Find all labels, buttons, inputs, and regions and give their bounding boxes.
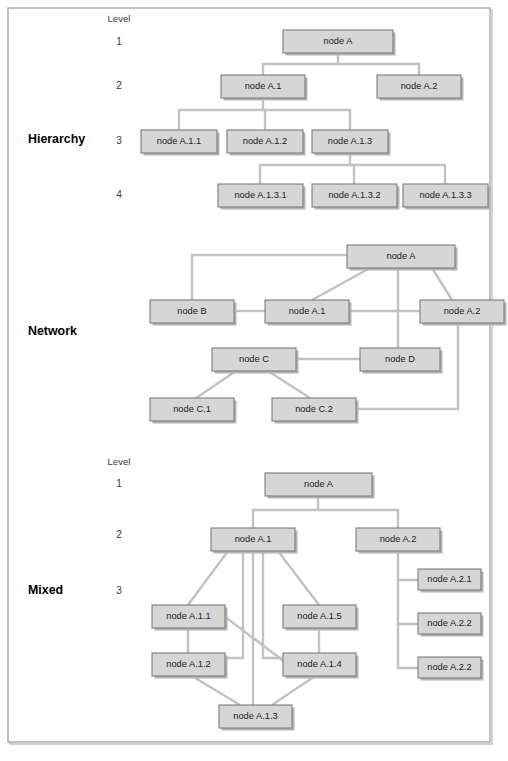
node-label-h-a132: node A.1.3.2 <box>328 190 380 200</box>
node-label-m-a15: node A.1.5 <box>297 611 341 621</box>
node-n-a2[interactable]: node A.2 <box>420 300 507 326</box>
node-n-c1[interactable]: node C.1 <box>150 398 237 424</box>
node-label-m-a12: node A.1.2 <box>166 659 210 669</box>
node-m-a12[interactable]: node A.1.2 <box>152 653 228 679</box>
node-m-a22a[interactable]: node A.2.2 <box>418 613 484 637</box>
node-label-n-a1: node A.1 <box>289 306 326 316</box>
node-m-a11[interactable]: node A.1.1 <box>152 605 228 631</box>
node-m-a[interactable]: node A <box>265 473 375 499</box>
node-n-c[interactable]: node C <box>212 348 299 374</box>
node-label-m-a22a: node A.2.2 <box>427 618 471 628</box>
node-label-m-a2: node A.2 <box>380 534 417 544</box>
node-n-b[interactable]: node B <box>150 300 237 326</box>
labels-network: Network <box>28 324 77 338</box>
node-n-a1[interactable]: node A.1 <box>265 300 352 326</box>
node-h-a12[interactable]: node A.1.2 <box>227 130 306 156</box>
level-header-hierarchy: Level <box>108 13 131 24</box>
node-label-h-a13: node A.1.3 <box>328 136 372 146</box>
level-number-mixed-2: 2 <box>116 529 122 540</box>
node-label-n-d: node D <box>385 354 415 364</box>
node-label-n-c1: node C.1 <box>173 404 211 414</box>
node-m-a1[interactable]: node A.1 <box>211 528 298 554</box>
node-m-a21[interactable]: node A.2.1 <box>418 569 484 593</box>
row-title-network: Network <box>28 324 77 338</box>
node-label-m-a22b: node A.2.2 <box>427 662 471 672</box>
node-label-h-a12: node A.1.2 <box>243 136 287 146</box>
node-n-d[interactable]: node D <box>360 348 443 374</box>
level-number-hierarchy-3: 3 <box>116 135 122 146</box>
node-m-a15[interactable]: node A.1.5 <box>283 605 359 631</box>
level-number-hierarchy-1: 1 <box>116 36 122 47</box>
node-label-n-a: node A <box>387 251 417 261</box>
node-h-a[interactable]: node A <box>283 30 396 56</box>
level-number-mixed-1: 1 <box>116 478 122 489</box>
node-label-h-a2: node A.2 <box>401 81 438 91</box>
node-label-m-a11: node A.1.1 <box>166 611 210 621</box>
node-label-m-a21: node A.2.1 <box>427 574 471 584</box>
level-number-hierarchy-4: 4 <box>116 189 122 200</box>
graph-structures-figure: node Anode A.1node A.2node A.1.1node A.1… <box>0 0 508 761</box>
node-label-m-a14: node A.1.4 <box>297 659 341 669</box>
node-h-a13[interactable]: node A.1.3 <box>312 130 391 156</box>
node-label-h-a: node A <box>324 36 354 46</box>
row-title-mixed: Mixed <box>28 583 63 597</box>
node-h-a1[interactable]: node A.1 <box>221 75 308 101</box>
level-header-mixed: Level <box>108 456 131 467</box>
node-label-n-c: node C <box>239 354 269 364</box>
node-label-n-b: node B <box>177 306 206 316</box>
level-number-hierarchy-2: 2 <box>116 80 122 91</box>
level-number-mixed-3: 3 <box>116 585 122 596</box>
node-label-h-a11: node A.1.1 <box>157 136 201 146</box>
node-label-h-a1: node A.1 <box>245 81 282 91</box>
node-n-c2[interactable]: node C.2 <box>272 398 359 424</box>
row-title-hierarchy: Hierarchy <box>28 132 85 146</box>
node-m-a22b[interactable]: node A.2.2 <box>418 657 484 681</box>
node-label-h-a131: node A.1.3.1 <box>234 190 286 200</box>
node-h-a133[interactable]: node A.1.3.3 <box>403 184 491 210</box>
node-h-a131[interactable]: node A.1.3.1 <box>218 184 306 210</box>
node-m-a14[interactable]: node A.1.4 <box>283 653 359 679</box>
node-label-m-a: node A <box>304 479 334 489</box>
node-m-a2[interactable]: node A.2 <box>356 528 443 554</box>
node-label-n-c2: node C.2 <box>295 404 333 414</box>
node-label-h-a133: node A.1.3.3 <box>419 190 471 200</box>
node-label-n-a2: node A.2 <box>444 306 481 316</box>
node-h-a132[interactable]: node A.1.3.2 <box>312 184 400 210</box>
node-h-a2[interactable]: node A.2 <box>377 75 464 101</box>
node-label-m-a1: node A.1 <box>235 534 272 544</box>
node-n-a[interactable]: node A <box>347 245 458 271</box>
node-label-m-a13: node A.1.3 <box>233 711 277 721</box>
node-m-a13[interactable]: node A.1.3 <box>219 705 295 731</box>
node-h-a11[interactable]: node A.1.1 <box>141 130 220 156</box>
